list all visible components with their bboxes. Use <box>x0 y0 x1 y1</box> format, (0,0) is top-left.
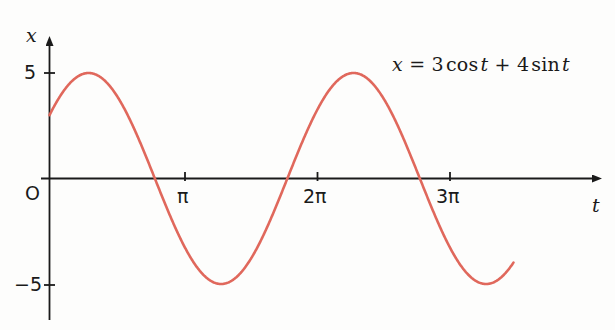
y-tick-label-5: 5 <box>24 63 36 82</box>
x-tick-label-2pi: 2π <box>303 187 327 206</box>
figure-canvas: x t O 5 −5 π 2π 3π x = 3 cos t + 4 sin t <box>0 0 615 330</box>
origin-label: O <box>25 184 40 203</box>
equation-lhs: x <box>392 53 403 75</box>
y-axis-label: x <box>26 26 37 45</box>
equation-equals: = <box>409 53 425 75</box>
x-axis-label: t <box>592 196 600 215</box>
equation-fn-sin: sin <box>531 53 560 75</box>
equation-coef-2: 4 <box>517 53 529 75</box>
y-tick-label-minus5: −5 <box>14 275 42 294</box>
equation-plus: + <box>495 53 511 75</box>
equation-coef-1: 3 <box>432 53 444 75</box>
x-tick-label-3pi: 3π <box>436 187 460 206</box>
plot-area <box>0 0 615 330</box>
equation-var-t-2: t <box>562 53 570 75</box>
equation-fn-cos: cos <box>446 53 478 75</box>
equation-annotation: x = 3 cos t + 4 sin t <box>392 55 570 74</box>
x-tick-label-pi: π <box>177 187 188 206</box>
